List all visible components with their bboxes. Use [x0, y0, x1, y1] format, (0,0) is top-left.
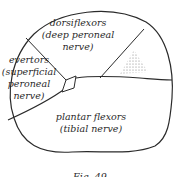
interosseous-membrane [76, 77, 172, 81]
label-anterior-line3: nerve) [63, 41, 94, 52]
label-lateral-line3: peroneal [8, 78, 50, 89]
label-anterior-line1: dorsiflexors [50, 17, 107, 28]
label-lateral-line1: evertors [9, 54, 49, 65]
label-anterior-line2: (deep peroneal [42, 29, 115, 40]
label-lateral-line4: nerve) [14, 90, 45, 101]
label-posterior-line1: plantar flexors [56, 111, 127, 122]
leg-cross-section-diagram: dorsiflexors (deep peroneal nerve) evert… [0, 0, 178, 177]
label-lateral-line2: (superficial [2, 66, 56, 77]
tibia-bone [120, 50, 148, 74]
label-posterior-line2: (tibial nerve) [60, 123, 123, 134]
figure-caption: Fig. 49 [72, 171, 107, 177]
